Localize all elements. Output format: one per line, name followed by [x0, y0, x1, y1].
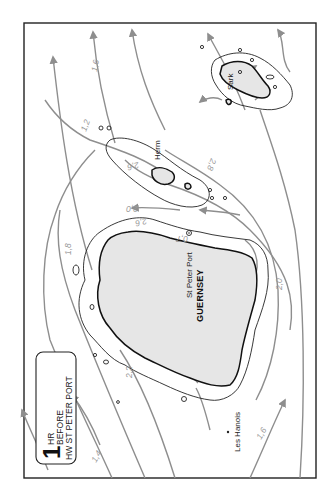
- rate-label: 1,8: [63, 243, 73, 255]
- st-peter-port-label: St Peter Port: [185, 251, 194, 298]
- brecqhou-coastline: [226, 99, 231, 104]
- rate-label: 2,0: [274, 278, 284, 291]
- rate-label: 1,6: [89, 59, 101, 73]
- rate-label: 2,0: [126, 204, 139, 214]
- les-hanois-marker: [227, 431, 229, 433]
- title-box: 1 HR BEFORE HW ST PETER PORT: [36, 352, 76, 464]
- les-hanois-label: Les Hanois: [233, 412, 242, 452]
- rate-label: 2,2: [124, 366, 134, 379]
- title-line3: HW ST PETER PORT: [64, 376, 74, 460]
- tidal-stream-map: 1,6 1,2 2,6 2,8 2,6 2,0 0,7 1,8 2,2 1,4 …: [0, 0, 331, 491]
- jethou-coastline: [185, 183, 191, 189]
- guernsey-label: GUERNSEY: [195, 269, 205, 322]
- st-peter-port-marker-dot: [188, 232, 190, 234]
- sark-label: Sark: [226, 73, 235, 90]
- rate-label: 0,7: [176, 234, 188, 244]
- herm-label: Herm: [153, 140, 162, 160]
- title-hour-number: 1: [38, 446, 65, 459]
